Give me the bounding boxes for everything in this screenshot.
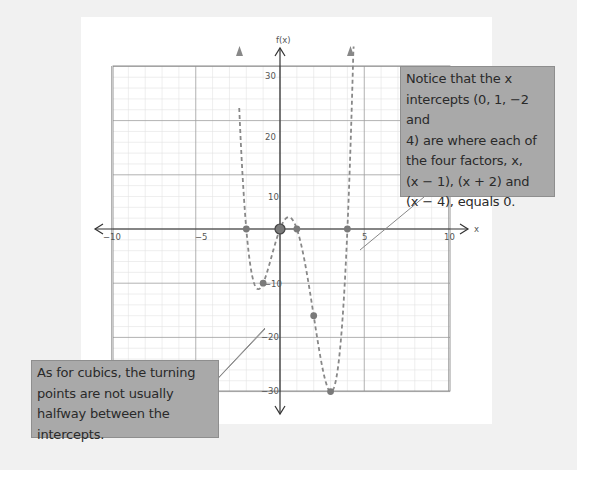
callout-line: halfway between the <box>37 404 213 425</box>
y-tick-label: −30 <box>261 386 279 396</box>
data-point <box>243 226 250 233</box>
callout-line: 4) are where each of <box>406 131 549 152</box>
data-point <box>344 226 351 233</box>
x-tick-label: 5 <box>362 232 367 242</box>
callout-line: (x − 4), equals 0. <box>406 192 549 213</box>
callout-line: intercepts (0, 1, −2 and <box>406 90 549 131</box>
x-tick-label: −10 <box>103 232 121 242</box>
y-tick-label: −10 <box>264 279 282 289</box>
callout-line: the four factors, x, <box>406 151 549 172</box>
y-axis-label: f(x) <box>276 35 291 45</box>
x-tick-label: −5 <box>195 232 208 242</box>
y-tick-label: −20 <box>261 332 279 342</box>
data-point <box>310 312 317 319</box>
data-point <box>275 224 285 234</box>
x-axis-label: x <box>474 224 479 234</box>
callout-line: Notice that the x <box>406 69 549 90</box>
x-tick-label: 10 <box>444 232 455 242</box>
data-point <box>293 226 300 233</box>
callout-line: points are not usually <box>37 384 213 405</box>
callout-line: As for cubics, the turning <box>37 363 213 384</box>
intercepts-note-callout: Notice that the x intercepts (0, 1, −2 a… <box>400 66 555 197</box>
turning-points-note-callout: As for cubics, the turning points are no… <box>31 360 219 438</box>
callout-line: intercepts. <box>37 425 213 446</box>
y-tick-label: 30 <box>265 71 276 81</box>
y-tick-label: 10 <box>268 192 279 202</box>
y-tick-label: 20 <box>265 132 276 142</box>
data-point <box>260 280 267 287</box>
callout-line: (x − 1), (x + 2) and <box>406 172 549 193</box>
curve-left-arrow-icon <box>236 46 243 56</box>
data-point <box>327 388 334 395</box>
